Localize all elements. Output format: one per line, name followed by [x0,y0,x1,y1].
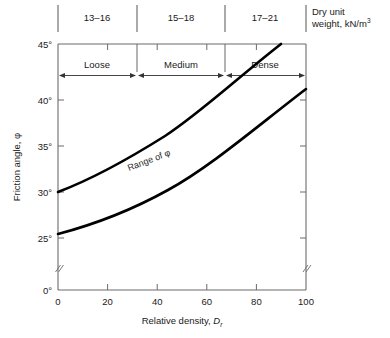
y-axis: 45° 40° 35° 30° 25° 0° [38,39,311,296]
y-tick-label-0: 0° [43,285,52,296]
band-arrow-loose [59,73,136,78]
data-curves [58,44,306,234]
x-tick-label-100: 100 [298,296,314,307]
band-arrow-dense [226,73,305,78]
y-tick-label-45: 45° [38,39,53,50]
plot-frame [58,44,306,290]
y-tick-label-35: 35° [38,141,53,152]
x-axis-title: Relative density, Dr [142,315,224,328]
y-axis-title: Friction angle, φ [11,133,22,201]
y-tick-label-25: 25° [38,233,53,244]
y-axis-title-text: Friction angle, [11,139,22,201]
y-axis-title-symbol: φ [11,133,22,139]
band-label-medium: Medium [164,59,198,70]
density-band-row: Loose Medium Dense [59,44,305,78]
x-tick-label-40: 40 [152,296,163,307]
y-tick-label-40: 40° [38,95,53,106]
y-tick-label-30: 30° [38,187,53,198]
x-tick-label-20: 20 [102,296,113,307]
dry-unit-weight-note-line2-text: weight, kN/m [311,18,367,29]
chart-figure: 13–16 15–18 17–21 Dry unit weight, kN/m3… [0,0,390,338]
band-label-loose: Loose [84,59,110,70]
x-axis-title-text: Relative density, [142,315,214,326]
range-of-phi-annotation: Range of φ [126,147,172,172]
curve-lower-bound-phi [58,89,306,234]
x-tick-label-80: 80 [251,296,262,307]
dry-unit-weight-loose: 13–16 [84,12,110,23]
dry-unit-weight-medium: 15–18 [168,12,194,23]
header-dry-unit-weight-row: 13–16 15–18 17–21 Dry unit weight, kN/m3 [58,5,371,32]
y-axis-break-mark-right [303,265,311,272]
band-arrow-medium [138,73,224,78]
friction-angle-chart: 13–16 15–18 17–21 Dry unit weight, kN/m3… [0,0,390,338]
dry-unit-weight-note-exponent: 3 [367,17,371,24]
x-axis-title-subscript: r [220,321,223,328]
dry-unit-weight-note-line2: weight, kN/m3 [311,17,371,29]
x-tick-label-0: 0 [55,296,60,307]
y-axis-break-mark [56,265,64,272]
dry-unit-weight-dense: 17–21 [252,12,278,23]
dry-unit-weight-note-line1: Dry unit [312,6,345,17]
x-tick-label-60: 60 [202,296,213,307]
